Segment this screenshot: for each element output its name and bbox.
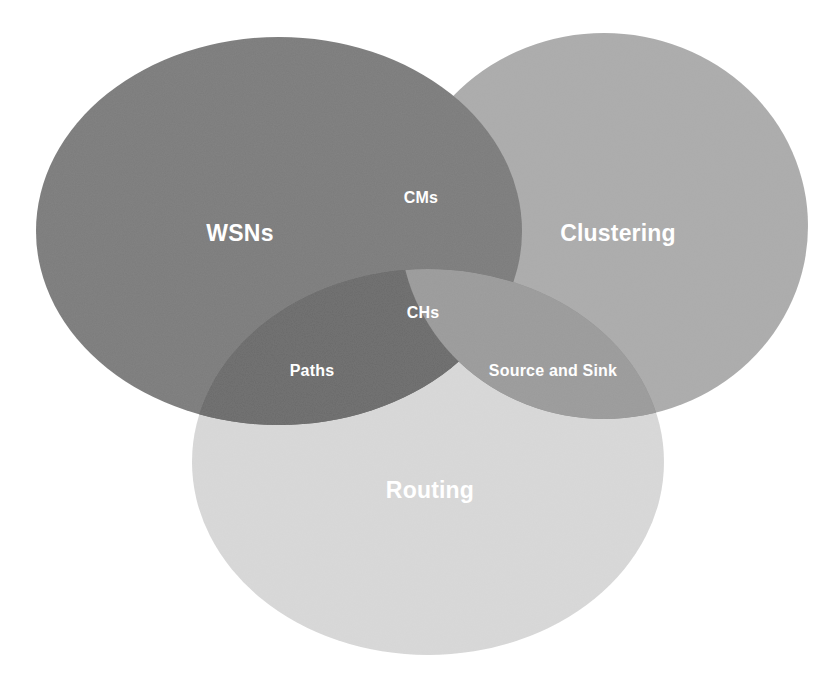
- paths-label: Paths: [290, 363, 335, 379]
- chs-label: CHs: [407, 305, 440, 321]
- clustering-label: Clustering: [560, 222, 676, 245]
- venn-diagram: [0, 0, 840, 680]
- cms-label: CMs: [404, 190, 438, 206]
- source-and-sink-label: Source and Sink: [489, 363, 617, 379]
- routing-label: Routing: [386, 479, 474, 502]
- wsns-label: WSNs: [206, 222, 273, 245]
